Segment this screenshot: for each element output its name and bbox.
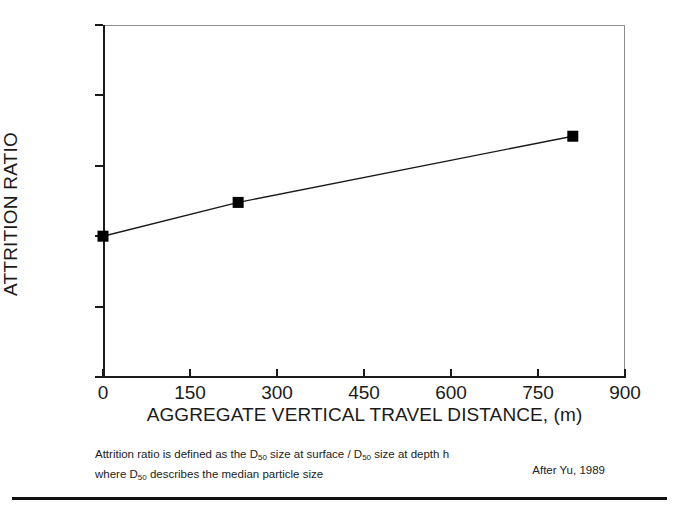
- x-tick-mark: [450, 369, 452, 378]
- footnote-line1-part1: Attrition ratio is defined as the D: [95, 448, 258, 460]
- footnote-line1-sub1: 50: [258, 453, 267, 462]
- bottom-divider-rule: [12, 497, 667, 500]
- footnote-block: Attrition ratio is defined as the D50 si…: [95, 446, 605, 486]
- footnote-line2-part2: describes the median particle size: [147, 468, 323, 480]
- footnote-line1-sub2: 50: [362, 453, 371, 462]
- x-tick-mark: [102, 369, 104, 378]
- y-tick-mark: [95, 165, 103, 167]
- footnote-line2-part1: where D: [95, 468, 138, 480]
- y-tick-mark: [95, 235, 103, 237]
- x-tick-mark: [189, 369, 191, 378]
- x-tick-mark: [624, 369, 626, 378]
- x-tick-mark: [276, 369, 278, 378]
- chart-figure: 00.511.522.5 0150300450600750900 ATTRITI…: [0, 0, 680, 510]
- y-tick-mark: [95, 24, 103, 26]
- x-tick-label: 450: [324, 383, 404, 403]
- x-axis-title: AGGREGATE VERTICAL TRAVEL DISTANCE, (m): [103, 404, 626, 426]
- plot-frame: [103, 25, 625, 377]
- x-tick-mark: [363, 369, 365, 378]
- y-axis-line: [103, 25, 105, 378]
- footnote-line1-part2: size at surface / D: [267, 448, 362, 460]
- x-tick-label: 900: [585, 383, 665, 403]
- x-tick-label: 150: [150, 383, 230, 403]
- x-tick-mark: [537, 369, 539, 378]
- footnote-line2-sub1: 50: [138, 473, 147, 482]
- x-tick-label: 750: [498, 383, 578, 403]
- y-tick-mark: [95, 306, 103, 308]
- x-tick-label: 300: [237, 383, 317, 403]
- y-tick-mark: [95, 94, 103, 96]
- footnote-line-1: Attrition ratio is defined as the D50 si…: [95, 446, 605, 466]
- footnote-line1-part3: size at depth h: [371, 448, 449, 460]
- source-credit: After Yu, 1989: [532, 462, 605, 478]
- x-tick-label: 0: [63, 383, 143, 403]
- footnote-line-2: where D50 describes the median particle …: [95, 466, 605, 486]
- y-axis-title: ATTRITION RATIO: [0, 38, 26, 390]
- x-tick-label: 600: [411, 383, 491, 403]
